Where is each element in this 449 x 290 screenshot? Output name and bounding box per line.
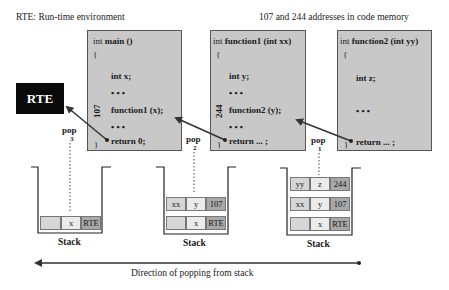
- stack2-container: [156, 167, 236, 234]
- call-stack-diagram: RTE: Run-time environment 107 and 244 ad…: [0, 0, 449, 290]
- return-arrow-main-to-rte: [67, 107, 107, 140]
- return-arrow-function1-to-main: [176, 118, 225, 140]
- connector-overlay: [0, 0, 449, 290]
- return-arrow-function2-to-function1: [297, 120, 351, 141]
- stack1-container: [31, 167, 111, 233]
- stack3-container: [280, 168, 361, 235]
